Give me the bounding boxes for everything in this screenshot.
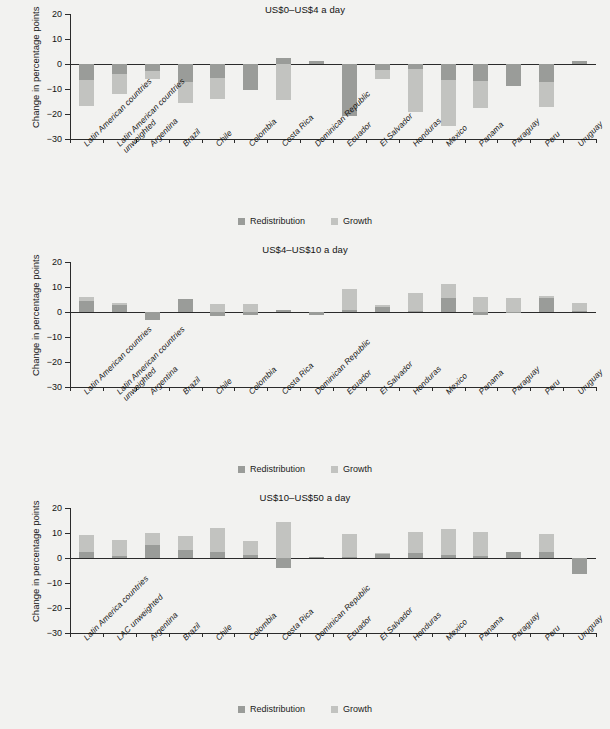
legend-label-growth: Growth xyxy=(343,464,372,474)
bar-segment-redistribution xyxy=(506,552,521,559)
y-tick-label: 0 xyxy=(57,307,62,317)
legend-label-redistribution: Redistribution xyxy=(250,216,305,226)
bar-segment-growth xyxy=(473,297,488,313)
bar-segment-redistribution xyxy=(473,556,488,558)
bar-segment-redistribution xyxy=(375,554,390,558)
x-tick xyxy=(169,633,170,637)
x-tick xyxy=(596,139,597,143)
bar-segment-redistribution xyxy=(408,311,423,312)
x-tick xyxy=(596,387,597,391)
x-tick xyxy=(300,633,301,637)
bar-segment-redistribution xyxy=(243,312,258,315)
bar-segment-redistribution xyxy=(506,312,521,313)
x-tick xyxy=(267,633,268,637)
x-tick xyxy=(202,387,203,391)
bar-segment-growth xyxy=(342,289,357,313)
bar-segment-redistribution xyxy=(506,64,521,86)
legend-swatch-growth-icon xyxy=(331,706,338,713)
legend-label-redistribution: Redistribution xyxy=(250,464,305,474)
bar-segment-redistribution xyxy=(309,312,324,315)
legend-swatch-redistribution-icon xyxy=(238,706,245,713)
bar-segment-redistribution xyxy=(572,558,587,574)
chart-title-1: US$4–US$10 a day xyxy=(0,244,610,255)
bar-segment-redistribution xyxy=(210,64,225,78)
bar-segment-redistribution xyxy=(441,298,456,313)
bar-segment-redistribution xyxy=(342,557,357,558)
legend-swatch-growth-icon xyxy=(331,218,338,225)
bar-segment-redistribution xyxy=(309,557,324,558)
bar-segment-growth xyxy=(243,304,258,312)
bar-segment-redistribution xyxy=(408,64,423,69)
y-tick-label: 20 xyxy=(52,9,62,19)
bar-segment-redistribution xyxy=(572,61,587,64)
bar-segment-redistribution xyxy=(79,64,94,80)
bar-segment-growth xyxy=(210,304,225,312)
bar-segment-redistribution xyxy=(145,64,160,71)
x-tick xyxy=(497,139,498,143)
bar-segment-redistribution xyxy=(539,298,554,312)
x-tick xyxy=(169,387,170,391)
bar-segment-redistribution xyxy=(309,61,324,64)
x-tick xyxy=(103,139,104,143)
bar-segment-redistribution xyxy=(145,545,160,558)
legend-item-growth: Growth xyxy=(331,464,372,474)
legend-item-redistribution: Redistribution xyxy=(238,704,305,714)
bar-segment-redistribution xyxy=(79,552,94,559)
bar-segment-growth xyxy=(473,532,488,559)
legend-item-growth: Growth xyxy=(331,704,372,714)
bar-segment-redistribution xyxy=(145,312,160,320)
x-tick xyxy=(399,139,400,143)
legend-label-redistribution: Redistribution xyxy=(250,704,305,714)
y-tick-label: 0 xyxy=(57,59,62,69)
y-tick-label: −10 xyxy=(47,84,62,94)
y-axis-label-0: Change in percentage points xyxy=(30,7,41,128)
x-tick xyxy=(70,387,71,391)
y-tick-label: 10 xyxy=(52,34,62,44)
chart-panel-2: US$10–US$50 a day Change in percentage p… xyxy=(0,490,610,729)
x-tick xyxy=(300,387,301,391)
x-tick xyxy=(399,633,400,637)
x-tick xyxy=(465,633,466,637)
x-tick xyxy=(234,387,235,391)
x-tick xyxy=(366,633,367,637)
y-tick-label: −10 xyxy=(47,578,62,588)
y-tick-label: −20 xyxy=(47,357,62,367)
x-tick xyxy=(497,633,498,637)
chart-title-2: US$10–US$50 a day xyxy=(0,492,610,503)
y-tick-label: −10 xyxy=(47,332,62,342)
y-tick-label: 10 xyxy=(52,528,62,538)
x-tick xyxy=(399,387,400,391)
bar-segment-redistribution xyxy=(112,305,127,312)
x-tick xyxy=(596,633,597,637)
x-tick xyxy=(530,139,531,143)
legend-0: Redistribution Growth xyxy=(0,216,610,226)
x-tick xyxy=(234,139,235,143)
bar-segment-redistribution xyxy=(112,556,127,558)
y-tick-label: 0 xyxy=(57,553,62,563)
x-tick xyxy=(366,139,367,143)
x-tick xyxy=(202,139,203,143)
bar-segment-growth xyxy=(408,293,423,312)
x-tick xyxy=(563,139,564,143)
x-tick xyxy=(530,387,531,391)
x-tick xyxy=(234,633,235,637)
bar-segment-redistribution xyxy=(243,64,258,90)
legend-swatch-redistribution-icon xyxy=(238,466,245,473)
x-tick xyxy=(465,387,466,391)
bar-segment-redistribution xyxy=(79,301,94,312)
bar-segment-redistribution xyxy=(112,64,127,74)
bar-segment-growth xyxy=(408,64,423,112)
y-axis-label-2: Change in percentage points xyxy=(30,501,41,622)
legend-2: Redistribution Growth xyxy=(0,704,610,714)
y-tick-label: −30 xyxy=(47,382,62,392)
bar-segment-redistribution xyxy=(441,64,456,80)
bar-segment-redistribution xyxy=(473,312,488,315)
legend-item-redistribution: Redistribution xyxy=(238,216,305,226)
y-tick-label: 20 xyxy=(52,503,62,513)
y-tick-label: −30 xyxy=(47,628,62,638)
y-tick-label: 10 xyxy=(52,282,62,292)
bar-segment-redistribution xyxy=(375,64,390,70)
x-tick xyxy=(465,139,466,143)
legend-item-redistribution: Redistribution xyxy=(238,464,305,474)
bar-segment-redistribution xyxy=(210,552,225,558)
